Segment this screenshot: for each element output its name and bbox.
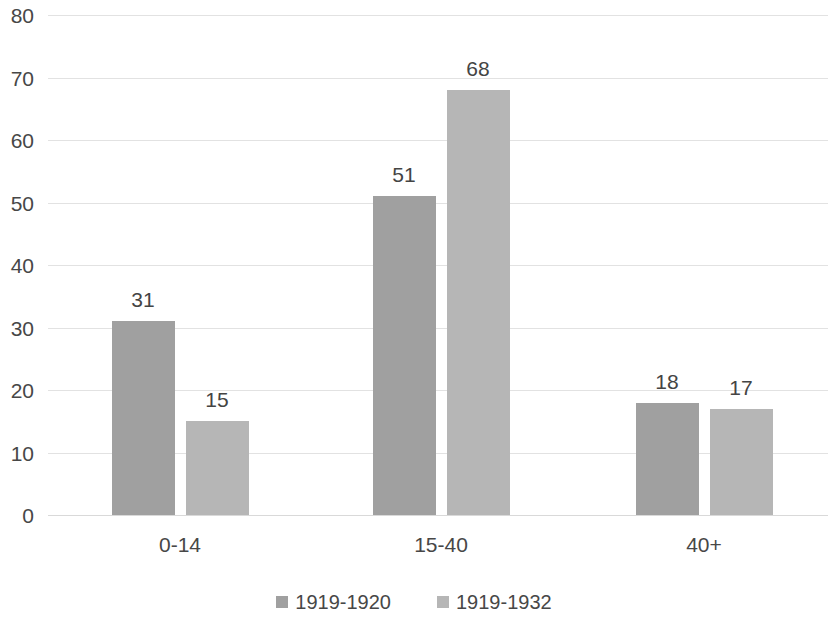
bar[interactable] [710, 409, 773, 515]
bar-value-label: 15 [186, 389, 249, 410]
bar-value-label: 17 [710, 377, 773, 398]
x-axis-category-label: 0-14 [100, 534, 260, 556]
legend-item[interactable]: 1919-1920 [276, 592, 391, 612]
y-axis-tick-label: 30 [11, 318, 34, 339]
bar[interactable] [186, 421, 249, 515]
x-axis-category-label: 15-40 [361, 534, 521, 556]
y-axis-tick-label: 60 [11, 130, 34, 151]
x-axis-line [48, 515, 828, 516]
legend: 1919-19201919-1932 [0, 592, 828, 612]
y-axis-tick-label: 40 [11, 255, 34, 276]
bar-value-label: 51 [373, 164, 436, 185]
bar-value-label: 18 [636, 371, 699, 392]
legend-label: 1919-1920 [295, 592, 391, 612]
bar-value-label: 68 [447, 58, 510, 79]
bar-value-label: 31 [112, 289, 175, 310]
bar[interactable] [636, 403, 699, 516]
gridline [48, 265, 828, 266]
plot-area [48, 15, 828, 515]
legend-swatch-icon [437, 596, 449, 608]
y-axis-tick-label: 70 [11, 68, 34, 89]
gridline [48, 203, 828, 204]
gridline [48, 140, 828, 141]
y-axis-tick-label: 20 [11, 380, 34, 401]
x-axis-category-label: 40+ [624, 534, 784, 556]
y-axis: 01020304050607080 [0, 0, 44, 530]
y-axis-tick-label: 50 [11, 193, 34, 214]
bar[interactable] [447, 90, 510, 515]
bar-chart: 01020304050607080 0-1415-4040+ 311551681… [0, 0, 828, 623]
y-axis-tick-label: 10 [11, 443, 34, 464]
legend-label: 1919-1932 [456, 592, 552, 612]
bar[interactable] [112, 321, 175, 515]
y-axis-tick-label: 0 [22, 505, 34, 526]
gridline [48, 78, 828, 79]
y-axis-tick-label: 80 [11, 5, 34, 26]
legend-item[interactable]: 1919-1932 [437, 592, 552, 612]
gridline [48, 15, 828, 16]
bar[interactable] [373, 196, 436, 515]
legend-swatch-icon [276, 596, 288, 608]
